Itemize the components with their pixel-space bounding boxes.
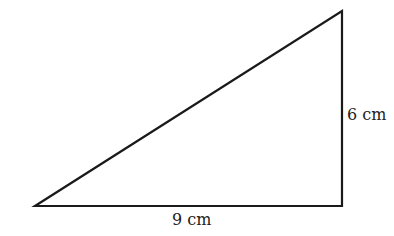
right-triangle	[35, 11, 342, 206]
height-label: 6 cm	[347, 105, 386, 124]
base-label: 9 cm	[172, 210, 211, 229]
triangle-diagram: 6 cm 9 cm	[0, 0, 394, 236]
